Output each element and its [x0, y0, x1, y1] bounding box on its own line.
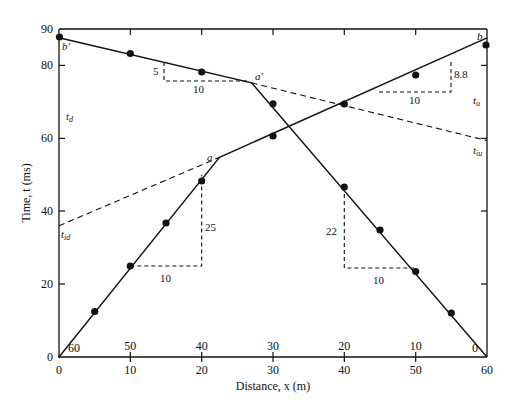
- x-tick-label: 10: [124, 363, 136, 377]
- label-t-d: td: [66, 110, 74, 124]
- reverse-tick-label: 40: [196, 339, 208, 353]
- triangle-22-rise: 22: [326, 225, 337, 237]
- reverse-tick-label: 30: [267, 339, 279, 353]
- t-id-line: [59, 157, 220, 226]
- label-a-prime: a′: [255, 70, 264, 82]
- forward-shot-line: [59, 38, 487, 357]
- x-axis-tick-labels: 0 10 20 30 40 50 60: [56, 363, 493, 377]
- triangle-25-rise: 25: [205, 221, 217, 233]
- x-tick-label: 50: [410, 363, 422, 377]
- x-tick-label: 60: [481, 363, 493, 377]
- x-axis-title: Distance, x (m): [236, 379, 310, 393]
- triangle-8-8-run: 10: [409, 94, 421, 106]
- y-tick-label: 40: [41, 204, 53, 218]
- x-tick-label: 40: [338, 363, 350, 377]
- label-b: b: [477, 30, 483, 42]
- traveltime-lines: [59, 38, 487, 357]
- reverse-tick-label: 50: [124, 339, 136, 353]
- y-axis-title: Time, t (ms): [19, 163, 33, 222]
- triangle-5-rise: 5: [153, 65, 159, 77]
- x-tick-label: 20: [196, 363, 208, 377]
- slope-triangles: [130, 60, 451, 268]
- traveltime-chart: 0 10 20 30 40 50 60 60 50 40 30 20 10 0 …: [0, 0, 515, 400]
- plot-frame: [59, 29, 487, 357]
- t-iu-line: [252, 83, 487, 141]
- axis-ticks: [59, 29, 487, 362]
- reverse-tick-label: 20: [338, 339, 350, 353]
- y-tick-label: 80: [41, 58, 53, 72]
- y-axis-tick-labels: 0 20 40 60 80 90: [41, 22, 53, 364]
- y-tick-label: 0: [47, 350, 53, 364]
- label-t-iu: tiu: [473, 144, 482, 158]
- y-tick-label: 20: [41, 277, 53, 291]
- label-t-u: tu: [473, 94, 480, 108]
- reverse-tick-label: 10: [410, 339, 422, 353]
- triangle-5-run: 10: [193, 83, 205, 95]
- data-points: [56, 33, 490, 358]
- label-b-prime: b′: [62, 40, 71, 52]
- triangle-22-run: 10: [373, 274, 385, 286]
- x-tick-label: 0: [56, 363, 62, 377]
- triangle-25-run: 10: [160, 272, 172, 284]
- x-tick-label: 30: [267, 363, 279, 377]
- y-tick-label: 60: [41, 131, 53, 145]
- label-t-id: tid: [61, 228, 71, 242]
- triangle-8-8-rise: 8.8: [454, 68, 468, 80]
- y-tick-label: 90: [41, 22, 53, 36]
- reverse-shot-line: [59, 38, 487, 357]
- label-a: a: [207, 151, 213, 163]
- x-axis-reverse-labels: 60 50 40 30 20 10 0: [68, 339, 478, 355]
